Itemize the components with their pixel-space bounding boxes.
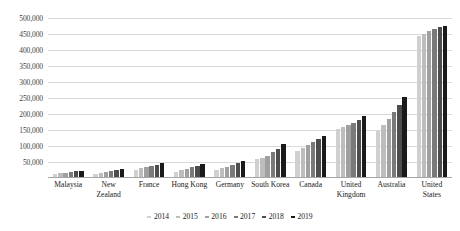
x-axis-label: Hong Kong (169, 180, 209, 199)
chart-legend: 201420152016201720182019 (0, 212, 460, 221)
legend-swatch-icon (147, 216, 151, 218)
y-axis-tick-label: 350,000 (19, 62, 43, 71)
legend-label: 2019 (297, 212, 312, 221)
bar (397, 105, 401, 178)
bar (271, 152, 275, 178)
bar (155, 165, 159, 178)
bar (402, 97, 406, 178)
x-axis-label: Malaysia (48, 180, 88, 199)
bar (322, 136, 326, 178)
bar-group (169, 18, 209, 178)
y-axis-tick-label: 150,000 (19, 126, 43, 135)
x-axis-label: South Korea (250, 180, 290, 199)
legend-label: 2014 (154, 212, 169, 221)
bar-group (210, 18, 250, 178)
axis-baseline (48, 177, 452, 178)
bar (417, 36, 421, 178)
x-axis-label: Canada (290, 180, 330, 199)
bar (316, 139, 320, 178)
bar (160, 163, 164, 178)
y-axis-tick-label: 100,000 (19, 142, 43, 151)
bar-group (331, 18, 371, 178)
bar (341, 127, 345, 178)
x-axis-label: France (129, 180, 169, 199)
bar (311, 142, 315, 178)
legend-swatch-icon (176, 216, 180, 218)
bar-group (290, 18, 330, 178)
legend-swatch-icon (234, 216, 238, 218)
bar (438, 27, 442, 178)
bar (392, 112, 396, 178)
y-axis-tick-label: 500,000 (19, 14, 43, 23)
bar-groups (48, 18, 452, 178)
bar-group (48, 18, 88, 178)
bar (387, 119, 391, 178)
legend-item[interactable]: 2018 (262, 212, 284, 221)
legend-swatch-icon (262, 216, 266, 218)
legend-label: 2017 (240, 212, 255, 221)
x-axis-label: Australia (371, 180, 411, 199)
bar (265, 156, 269, 178)
bar (351, 123, 355, 178)
y-axis-tick-label: 50,000 (23, 158, 43, 167)
x-axis-label: United States (412, 180, 452, 199)
bar (346, 125, 350, 178)
bar (336, 129, 340, 178)
legend-item[interactable]: 2019 (291, 212, 313, 221)
x-axis-label: New Zealand (88, 180, 128, 199)
bar (276, 149, 280, 178)
bar (376, 131, 380, 178)
bar (236, 163, 240, 178)
bar (241, 161, 245, 178)
legend-label: 2015 (183, 212, 198, 221)
bar-group (412, 18, 452, 178)
x-axis-labels: MalaysiaNew ZealandFranceHong KongGerman… (48, 180, 452, 199)
bar (422, 34, 426, 178)
legend-swatch-icon (205, 216, 209, 218)
x-axis-label: United Kingdom (331, 180, 371, 199)
bar (260, 158, 264, 178)
legend-item[interactable]: 2017 (234, 212, 256, 221)
legend-swatch-icon (291, 216, 295, 218)
legend-item[interactable]: 2016 (205, 212, 227, 221)
legend-item[interactable]: 2014 (147, 212, 169, 221)
y-axis-tick-label: 250,000 (19, 94, 43, 103)
bar-group (88, 18, 128, 178)
y-axis-tick-label: 450,000 (19, 30, 43, 39)
y-axis-tick-label: 200,000 (19, 110, 43, 119)
bar (255, 159, 259, 178)
bar (432, 29, 436, 178)
bar-group (371, 18, 411, 178)
bar (281, 144, 285, 178)
bar (427, 31, 431, 178)
bar-group (250, 18, 290, 178)
bar (306, 145, 310, 178)
bar-group (129, 18, 169, 178)
legend-label: 2016 (211, 212, 226, 221)
bar (200, 164, 204, 178)
y-axis-tick-label: 300,000 (19, 78, 43, 87)
bar (381, 125, 385, 178)
y-axis-tick-label: 400,000 (19, 46, 43, 55)
bar (301, 148, 305, 178)
legend-item[interactable]: 2015 (176, 212, 198, 221)
bar (362, 116, 366, 178)
bar (443, 26, 447, 178)
bar (295, 151, 299, 178)
legend-label: 2018 (269, 212, 284, 221)
plot-area: 50,000100,000150,000200,000250,000300,00… (48, 18, 452, 178)
bar (357, 120, 361, 178)
bar-chart: 50,000100,000150,000200,000250,000300,00… (0, 0, 460, 231)
x-axis-label: Germany (210, 180, 250, 199)
